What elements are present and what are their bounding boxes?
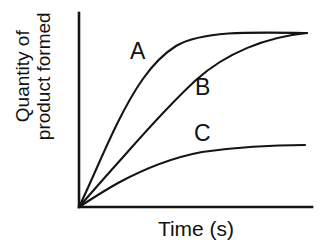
curve-c (79, 145, 305, 207)
curve-label-b: B (195, 76, 210, 99)
curve-label-c: C (194, 122, 211, 145)
curve-label-a: A (130, 40, 145, 63)
curve-a (79, 33, 307, 208)
y-axis-label: Quantity of product formed (12, 0, 55, 176)
x-axis-label: Time (s) (78, 218, 314, 240)
curve-b (79, 33, 307, 207)
chart-figure: A B C Time (s) Quantity of product forme… (0, 0, 334, 251)
y-axis-label-line-2: product formed (33, 0, 54, 176)
y-axis-label-line-1: Quantity of (12, 0, 33, 176)
